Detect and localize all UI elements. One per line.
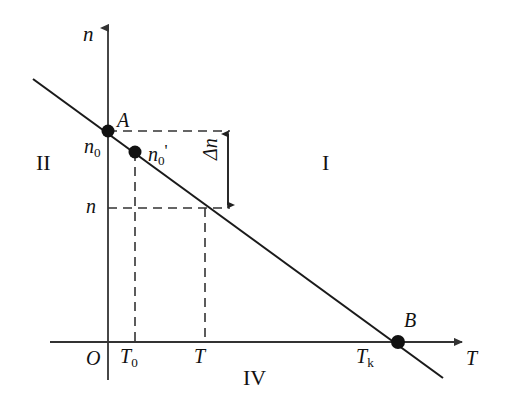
t0-base: T (120, 345, 131, 367)
point-B-label: B (404, 310, 416, 330)
origin-label: O (86, 348, 100, 368)
delta-n-label: Δn (200, 138, 220, 160)
point-B-marker (391, 335, 405, 349)
n0-subscript: 0 (94, 145, 101, 160)
diagram-canvas (0, 0, 509, 417)
t0-tick-label: T0 (120, 346, 138, 369)
n0-prime-subscript: 0 (158, 153, 165, 168)
t-tick-label: T (194, 346, 205, 366)
tk-subscript: k (367, 355, 374, 370)
quadrant-label-II: II (36, 152, 51, 174)
n-tick-label: n (86, 196, 96, 216)
point-n0-prime-marker (129, 146, 142, 159)
point-A-marker (102, 125, 115, 138)
n0-tick-label: n0 (84, 136, 101, 159)
t-axis-label: T (466, 348, 477, 368)
quadrant-label-IV: IV (243, 367, 266, 389)
n0-base: n (84, 135, 94, 157)
n-axis-label: n (83, 24, 94, 45)
tk-tick-label: Tk (356, 346, 374, 369)
point-n0-prime-label: n0' (148, 142, 168, 167)
n0-prime-mark: ' (165, 141, 168, 160)
tk-base: T (356, 345, 367, 367)
quadrant-label-I: I (322, 152, 329, 174)
t0-subscript: 0 (131, 355, 138, 370)
point-A-label: A (117, 110, 129, 130)
n0-prime-base: n (148, 143, 158, 165)
figure-container: n A n0 n0' n O T0 T Tk T B Δn I II IV (0, 0, 509, 417)
data-line (33, 79, 443, 378)
